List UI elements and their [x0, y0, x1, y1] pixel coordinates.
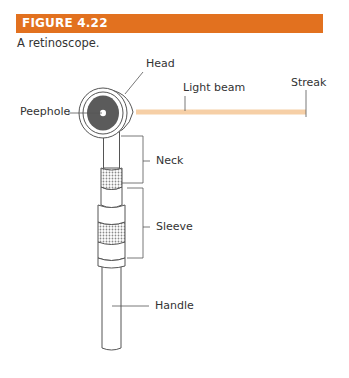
label-light-beam: Light beam [183, 81, 245, 94]
sleeve-bracket [127, 188, 150, 258]
label-sleeve: Sleeve [156, 220, 193, 233]
label-head: Head [146, 57, 175, 70]
sleeve [98, 187, 125, 268]
neck [101, 130, 122, 190]
head-leader [125, 72, 143, 94]
label-handle: Handle [155, 299, 194, 312]
neck-bracket [121, 136, 150, 183]
label-streak: Streak [291, 76, 326, 89]
label-peephole: Peephole [20, 105, 70, 118]
light-beam [136, 110, 306, 115]
label-neck: Neck [156, 154, 183, 167]
